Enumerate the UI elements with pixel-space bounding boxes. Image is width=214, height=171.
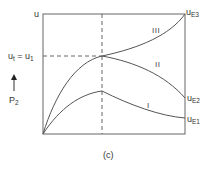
- rising-curve-lower: [43, 91, 102, 134]
- uE2-label: uE2: [187, 93, 200, 104]
- curve-I: [102, 91, 185, 118]
- p2-label: P2: [9, 95, 19, 106]
- curve-III-label: III: [152, 26, 160, 35]
- y-axis-label: u: [34, 9, 39, 19]
- uE3-label: uE3: [186, 7, 199, 18]
- figure-caption: (c): [103, 150, 114, 160]
- ut-equals-u1-label: ut = u1: [8, 51, 34, 62]
- curve-II-label: II: [155, 60, 160, 69]
- plot-frame: [43, 14, 185, 134]
- uE1-label: uE1: [187, 114, 200, 125]
- curve-II: [102, 56, 185, 98]
- curve-I-label: I: [147, 101, 150, 110]
- diagram-canvas: [0, 0, 214, 171]
- curve-III: [102, 14, 185, 56]
- arrow-up-icon: [11, 74, 17, 80]
